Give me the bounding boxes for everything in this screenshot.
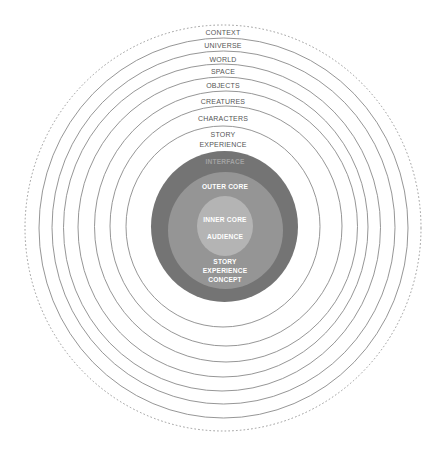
label-concept-experience: EXPERIENCE	[203, 267, 248, 274]
label-creatures: CREATURES	[201, 98, 246, 105]
label-world: WORLD	[209, 56, 236, 63]
label-concept: CONCEPT	[208, 276, 242, 283]
label-outer-core: OUTER CORE	[202, 183, 248, 190]
label-space: SPACE	[211, 68, 235, 75]
label-experience: EXPERIENCE	[199, 141, 246, 148]
inner-core-disk	[197, 196, 253, 256]
label-context: CONTEXT	[206, 29, 241, 36]
label-story: STORY	[211, 131, 236, 138]
concentric-layers-diagram: CONTEXT UNIVERSE WORLD SPACE OBJECTS CRE…	[0, 0, 444, 449]
label-audience: AUDIENCE	[207, 233, 243, 240]
label-concept-story: STORY	[213, 258, 237, 265]
label-objects: OBJECTS	[206, 82, 240, 89]
label-universe: UNIVERSE	[204, 42, 242, 49]
label-characters: CHARACTERS	[198, 115, 248, 122]
label-interface: INTERFACE	[205, 158, 245, 165]
label-inner-core: INNER CORE	[203, 216, 247, 223]
